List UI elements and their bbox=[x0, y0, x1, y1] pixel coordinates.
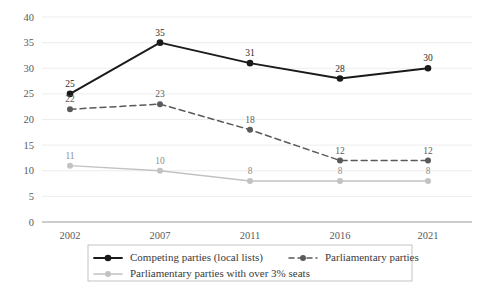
legend-label: Competing parties (local lists) bbox=[130, 251, 263, 264]
data-point-label: 35 bbox=[155, 28, 165, 38]
x-axis-tick-label: 2002 bbox=[60, 230, 81, 241]
data-point-label: 23 bbox=[155, 89, 165, 99]
data-point-label: 30 bbox=[423, 53, 433, 63]
data-point-label: 28 bbox=[335, 64, 345, 74]
data-point-label: 12 bbox=[423, 146, 433, 156]
y-axis-tick-label: 10 bbox=[24, 165, 35, 176]
data-point-label: 18 bbox=[245, 115, 255, 125]
data-point bbox=[337, 75, 344, 82]
data-point-label: 31 bbox=[245, 48, 255, 58]
gridlines bbox=[42, 17, 472, 196]
y-axis-tick-label: 40 bbox=[24, 12, 35, 23]
data-point-label: 8 bbox=[338, 166, 343, 176]
x-axis-tick-label: 2007 bbox=[150, 230, 171, 241]
y-axis-tick-label: 5 bbox=[29, 191, 34, 202]
data-point bbox=[425, 178, 431, 184]
data-point-label: 22 bbox=[65, 94, 75, 104]
data-point bbox=[247, 60, 254, 67]
data-point bbox=[157, 39, 164, 46]
legend-entry[interactable]: Competing parties (local lists) bbox=[94, 251, 263, 264]
y-axis-tick-label: 20 bbox=[24, 114, 35, 125]
data-point bbox=[67, 106, 73, 112]
y-axis-tick-label: 15 bbox=[24, 140, 35, 151]
data-point bbox=[425, 65, 432, 72]
data-point bbox=[425, 158, 431, 164]
data-point bbox=[247, 178, 253, 184]
legend-marker bbox=[105, 271, 111, 277]
data-point bbox=[67, 163, 73, 169]
line-chart: 0510152025303540 20022007201120162021 25… bbox=[0, 0, 486, 296]
y-axis-tick-label: 35 bbox=[24, 37, 35, 48]
y-axis-tick-label: 0 bbox=[29, 217, 34, 228]
data-point bbox=[337, 158, 343, 164]
y-axis-tick-label: 30 bbox=[24, 63, 35, 74]
x-axis-tick-labels: 20022007201120162021 bbox=[60, 230, 439, 241]
data-point-label: 8 bbox=[426, 166, 431, 176]
data-point bbox=[157, 168, 163, 174]
data-point-label: 12 bbox=[335, 146, 345, 156]
legend-entry[interactable]: Parliamentary parties bbox=[289, 251, 419, 263]
x-axis-tick-label: 2021 bbox=[418, 230, 439, 241]
data-series-group bbox=[67, 39, 432, 184]
data-point bbox=[247, 127, 253, 133]
data-point-label: 25 bbox=[65, 79, 75, 89]
legend-label: Parliamentary parties with over 3% seats bbox=[130, 267, 310, 279]
chart-legend: Competing parties (local lists)Parliamen… bbox=[88, 245, 419, 281]
legend-entry[interactable]: Parliamentary parties with over 3% seats bbox=[94, 267, 310, 279]
data-point bbox=[157, 101, 163, 107]
data-point-label: 10 bbox=[155, 156, 165, 166]
data-point-labels: 253531283022231812121110888 bbox=[65, 28, 433, 176]
legend-marker bbox=[300, 255, 306, 261]
x-axis-tick-label: 2016 bbox=[330, 230, 351, 241]
y-axis-tick-label: 25 bbox=[24, 88, 35, 99]
data-point bbox=[337, 178, 343, 184]
data-point-label: 8 bbox=[248, 166, 253, 176]
x-axis-tick-label: 2011 bbox=[240, 230, 261, 241]
chart-canvas: 0510152025303540 20022007201120162021 25… bbox=[0, 0, 486, 296]
data-point-label: 11 bbox=[65, 151, 74, 161]
y-axis-tick-labels: 0510152025303540 bbox=[24, 12, 35, 228]
legend-label: Parliamentary parties bbox=[325, 251, 419, 263]
legend-marker bbox=[105, 255, 112, 262]
